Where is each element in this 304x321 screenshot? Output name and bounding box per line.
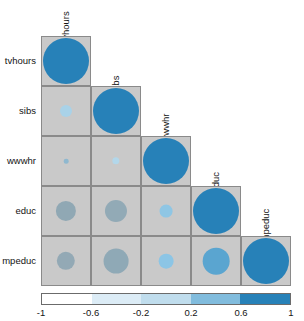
correlation-dot <box>93 88 139 134</box>
row-label-wwwhr: wwwhr <box>0 156 36 166</box>
correlation-dot <box>56 201 76 221</box>
correlation-dot <box>43 38 89 84</box>
matrix-cell-educ-educ <box>191 186 241 236</box>
legend-tick-3: 0.2 <box>184 308 197 318</box>
matrix-cell-mpeduc-educ <box>191 236 241 286</box>
correlation-dot <box>160 205 173 218</box>
matrix-cell-educ-sibs <box>91 186 141 236</box>
matrix-cell-mpeduc-wwwhr <box>141 236 191 286</box>
correlation-dot <box>112 157 119 164</box>
legend-tick-4: 0.6 <box>234 308 247 318</box>
correlation-matrix-plot: tvhours sibs wwwhr educ mpeduc tvhours s… <box>0 0 304 321</box>
legend-segment-4 <box>240 294 290 304</box>
legend-tick-0: -1 <box>37 308 45 318</box>
row-label-tvhours: tvhours <box>0 56 36 66</box>
matrix-cell-sibs-tvhours <box>41 86 91 136</box>
matrix-cell-educ-wwwhr <box>141 186 191 236</box>
matrix-cell-wwwhr-tvhours <box>41 136 91 186</box>
matrix-cell-mpeduc-sibs <box>91 236 141 286</box>
matrix-cell-wwwhr-sibs <box>91 136 141 186</box>
matrix-cell-educ-tvhours <box>41 186 91 236</box>
matrix-cell-mpeduc-tvhours <box>41 236 91 286</box>
legend-tick-5: 1 <box>288 308 293 318</box>
legend-segment-1 <box>92 294 142 304</box>
legend-tick-2: -0.2 <box>133 308 149 318</box>
matrix-cell-tvhours-tvhours <box>41 36 91 86</box>
row-label-mpeduc: mpeduc <box>0 256 36 266</box>
matrix-cell-sibs-sibs <box>91 86 141 136</box>
correlation-dot <box>159 254 174 269</box>
correlation-dot <box>193 188 239 234</box>
correlation-dot <box>60 105 72 117</box>
color-legend-bar <box>41 293 291 305</box>
legend-segment-2 <box>141 294 191 304</box>
correlation-dot <box>57 252 75 270</box>
correlation-dot <box>104 249 129 274</box>
legend-segment-0 <box>42 294 92 304</box>
correlation-dot <box>64 159 69 164</box>
legend-segment-3 <box>191 294 241 304</box>
legend-tick-1: -0.6 <box>83 308 99 318</box>
correlation-dot <box>203 248 230 275</box>
matrix-cell-mpeduc-mpeduc <box>241 236 291 286</box>
correlation-dot <box>105 200 127 222</box>
matrix-cell-wwwhr-wwwhr <box>141 136 191 186</box>
row-label-educ: educ <box>0 206 36 216</box>
correlation-dot <box>143 138 189 184</box>
correlation-dot <box>243 238 289 284</box>
row-label-sibs: sibs <box>0 106 36 116</box>
